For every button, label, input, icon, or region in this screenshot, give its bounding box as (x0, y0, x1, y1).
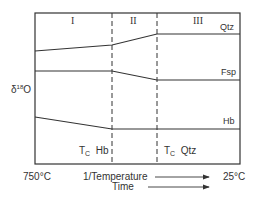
line-fsp (35, 71, 240, 80)
plot-frame (35, 13, 240, 164)
tc-subscript: C (85, 150, 90, 157)
x-left-label: 750°C (23, 172, 51, 182)
line-qtz (35, 34, 240, 51)
x-right-label: 25°C (223, 172, 245, 182)
isotope-superscript: 18 (17, 84, 24, 90)
series-label-hb: Hb (223, 117, 235, 126)
series-label-qtz: Qtz (220, 23, 234, 32)
time-label: Time (112, 182, 134, 192)
closure-label-qtz: TC Qtz (164, 146, 196, 156)
tc-subscript: C (170, 150, 175, 157)
region-label-i: I (71, 16, 74, 26)
line-hb (35, 117, 240, 129)
series-label-fsp: Fsp (221, 68, 236, 77)
y-axis-label: δ18O (11, 85, 31, 95)
tc-mineral: Qtz (181, 145, 197, 156)
closure-label-hb: TC Hb (79, 146, 109, 156)
region-label-ii: II (130, 16, 137, 26)
region-label-iii: III (193, 16, 203, 26)
tc-mineral: Hb (96, 145, 109, 156)
delta-symbol: δ (11, 84, 17, 95)
element-symbol: O (23, 84, 31, 95)
